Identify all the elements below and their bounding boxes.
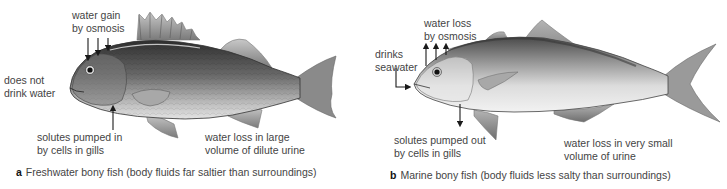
panel-marine-fish: water loss by osmosis drinks seawater so… bbox=[364, 0, 727, 189]
gill-cover bbox=[72, 54, 127, 106]
caption-letter: b bbox=[390, 169, 396, 181]
water-loss-label: water loss by osmosis bbox=[424, 17, 477, 42]
water-gain-label: water gain by osmosis bbox=[72, 9, 125, 34]
caption-text: Freshwater bony fish (body fluids far sa… bbox=[26, 166, 317, 178]
drink-label: drinks seawater bbox=[375, 48, 418, 73]
tail-fin bbox=[296, 56, 336, 118]
caption-letter: a bbox=[16, 166, 22, 178]
solutes-label: solutes pumped out by cells in gills bbox=[394, 134, 486, 159]
solutes-label: solutes pumped in by cells in gills bbox=[37, 131, 122, 156]
drink-label: does not drink water bbox=[4, 74, 55, 99]
dorsal-fin bbox=[137, 12, 200, 40]
tail-fin bbox=[664, 44, 720, 122]
urine-label: water loss in very small volume of urine bbox=[564, 137, 673, 162]
panel-freshwater-fish: water gain by osmosis does not drink wat… bbox=[0, 0, 364, 189]
caption-b: bMarine bony fish (body fluids less salt… bbox=[390, 169, 671, 181]
urine-label: water loss in large volume of dilute uri… bbox=[205, 131, 305, 156]
caption-text: Marine bony fish (body fluids less salty… bbox=[400, 169, 670, 181]
caption-a: aFreshwater bony fish (body fluids far s… bbox=[16, 166, 316, 178]
